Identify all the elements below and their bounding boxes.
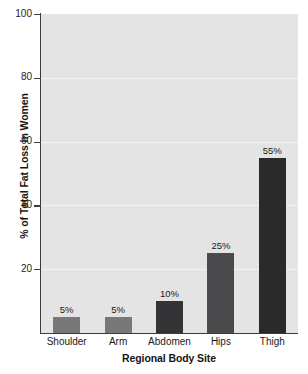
plot-area [41,14,298,333]
y-axis-tick [34,269,40,270]
bar-value-label: 10% [145,288,195,299]
y-axis-line [40,13,41,334]
gridline [41,142,298,143]
y-axis-tick-label: 100 [0,8,32,19]
x-axis-line [40,333,298,334]
y-axis-tick-label: 60 [0,135,32,146]
bar [259,158,286,333]
y-axis-tick-label: 20 [0,263,32,274]
bar [207,253,234,333]
y-axis-tick [34,14,40,15]
bar-value-label: 5% [93,304,143,315]
y-axis-tick [34,205,40,206]
bar-chart: % of Total Fat Loss in Women 10080604020… [0,0,308,374]
y-axis-tick-label: 80 [0,71,32,82]
y-axis-title: % of Total Fat Loss in Women [18,56,30,276]
bar-value-label: 25% [196,240,246,251]
y-axis-tick [34,78,40,79]
x-axis-title: Regional Body Site [40,352,298,364]
y-axis-tick-label: 40 [0,199,32,210]
bar [156,301,183,333]
bar [105,317,132,333]
bar-value-label: 5% [42,304,92,315]
bar-value-label: 55% [247,145,297,156]
y-axis-tick [34,142,40,143]
bar [53,317,80,333]
x-axis-tick-label: Thigh [232,336,308,347]
gridline [41,78,298,79]
